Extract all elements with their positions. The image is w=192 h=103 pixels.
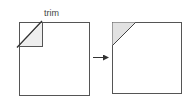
right-square xyxy=(113,23,182,94)
left-square: trim xyxy=(17,8,90,96)
trim-diagram: trim xyxy=(0,0,192,103)
trim-label: trim xyxy=(44,8,59,18)
